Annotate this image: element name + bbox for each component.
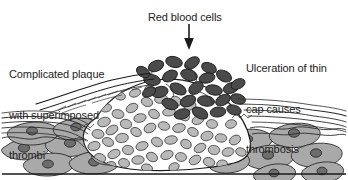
label-red-blood-cells: Red blood cells xyxy=(148,11,222,25)
label-ulceration-line-3: thrombosis xyxy=(246,143,327,157)
label-complicated-plaque-line-2: with superimposed xyxy=(9,109,104,123)
label-complicated-plaque-line-1: Complicated plaque xyxy=(9,68,104,82)
label-complicated-plaque-line-3: thrombi xyxy=(9,149,104,163)
label-ulceration-line-2: cap causes xyxy=(246,103,327,117)
plaque-illustration-figure: Red blood cells Complicated plaque with … xyxy=(0,0,348,180)
label-ulceration: Ulceration of thin cap causes thrombosis xyxy=(246,35,327,180)
label-ulceration-line-1: Ulceration of thin xyxy=(246,62,327,76)
label-complicated-plaque: Complicated plaque with superimposed thr… xyxy=(9,41,104,180)
